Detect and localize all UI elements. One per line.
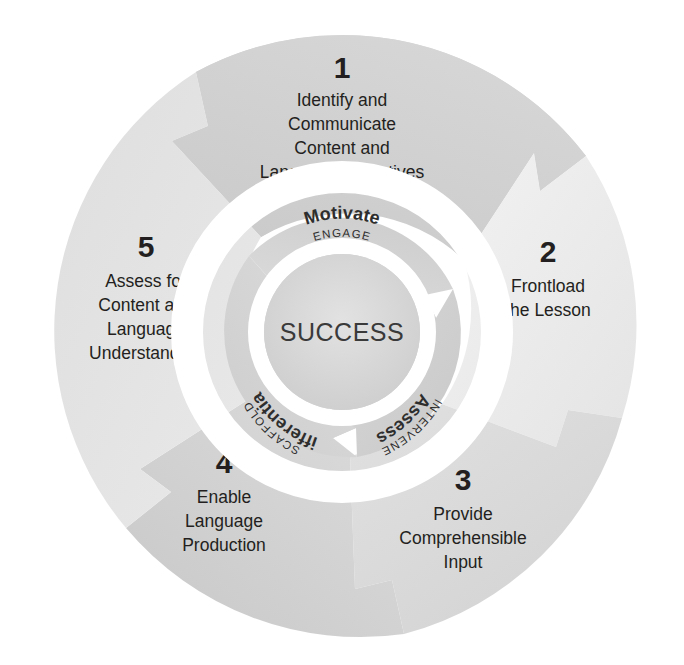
outer-segment-2-line-1: Frontload bbox=[511, 276, 585, 296]
outer-segment-1-number: 1 bbox=[334, 51, 351, 84]
outer-segment-4-line-1: Enable bbox=[197, 487, 252, 507]
outer-segment-5-line-1: Assess for bbox=[105, 271, 187, 291]
cycle-diagram-svg: 1 Identify and Communicate Content and L… bbox=[0, 0, 684, 665]
center-label: SUCCESS bbox=[280, 318, 404, 346]
center-disc-group[interactable]: SUCCESS bbox=[264, 254, 420, 410]
outer-segment-3-number: 3 bbox=[455, 463, 472, 496]
outer-segment-3-line-3: Input bbox=[444, 552, 483, 572]
outer-segment-1-line-2: Communicate bbox=[288, 114, 396, 134]
outer-segment-5-number: 5 bbox=[138, 230, 155, 263]
cycle-diagram: 1 Identify and Communicate Content and L… bbox=[0, 0, 684, 665]
outer-segment-3-line-2: Comprehensible bbox=[399, 528, 526, 548]
outer-segment-2-line-2: the Lesson bbox=[505, 300, 591, 320]
outer-segment-3-line-1: Provide bbox=[433, 504, 492, 524]
outer-segment-4-line-3: Production bbox=[182, 535, 266, 555]
outer-segment-2-number: 2 bbox=[540, 235, 557, 268]
outer-segment-4-line-2: Language bbox=[185, 511, 263, 531]
outer-segment-1-line-1: Identify and bbox=[297, 90, 387, 110]
outer-segment-1-line-3: Content and bbox=[294, 138, 389, 158]
